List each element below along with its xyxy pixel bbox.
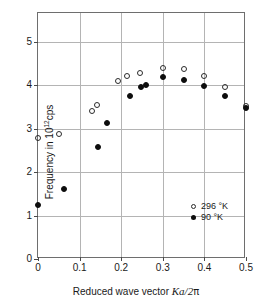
y-tick-mark	[34, 172, 38, 173]
gridline-horizontal	[38, 42, 244, 43]
x-tick-mark	[80, 257, 81, 261]
y-axis-label-suffix: cps	[44, 104, 55, 120]
y-tick-mark	[34, 259, 38, 260]
x-tick-mark	[204, 257, 205, 261]
data-point-series-1	[115, 78, 121, 84]
data-point-series-2	[104, 120, 110, 126]
data-point-series-2	[243, 105, 249, 111]
data-point-series-1	[160, 65, 166, 71]
y-tick-mark	[34, 85, 38, 86]
data-point-series-2	[160, 74, 166, 80]
data-point-series-2	[35, 202, 41, 208]
data-point-series-1	[56, 131, 62, 137]
open-circle-marker-icon	[190, 202, 199, 211]
filled-circle-marker-icon	[190, 213, 199, 222]
data-point-series-2	[127, 93, 133, 99]
y-tick-mark	[34, 42, 38, 43]
data-point-series-1	[201, 73, 207, 79]
data-point-series-1	[89, 108, 95, 114]
y-axis-label-prefix: Frequency in 10	[44, 127, 55, 199]
gridline-vertical	[121, 13, 122, 257]
x-tick-label: 0.1	[73, 263, 87, 273]
y-axis-label: Frequency in 1012cps	[43, 104, 55, 199]
data-point-series-1	[181, 66, 187, 72]
data-point-series-2	[201, 83, 207, 89]
scatter-plot-figure: 00.10.20.30.40.5012345 296 °K 90 °K Freq…	[0, 0, 272, 303]
data-point-series-1	[222, 84, 228, 90]
x-tick-label: 0.4	[197, 263, 211, 273]
x-tick-label: 0	[35, 263, 41, 273]
gridline-vertical	[163, 13, 164, 257]
data-point-series-2	[181, 77, 187, 83]
y-tick-label: 1	[26, 211, 32, 221]
data-point-series-2	[95, 144, 101, 150]
legend-label-296k: 296 °K	[201, 201, 228, 212]
y-tick-label: 5	[26, 37, 32, 47]
x-axis-label-pi: π	[193, 286, 199, 297]
y-tick-label: 2	[26, 167, 32, 177]
data-point-series-1	[124, 73, 130, 79]
legend-item-90k: 90 °K	[190, 212, 228, 223]
y-tick-mark	[34, 129, 38, 130]
data-point-series-2	[222, 93, 228, 99]
legend: 296 °K 90 °K	[190, 201, 228, 223]
x-tick-mark	[163, 257, 164, 261]
gridline-vertical	[80, 13, 81, 257]
data-point-series-1	[94, 102, 100, 108]
x-axis-label: Reduced wave vector Ka/2π	[0, 285, 272, 297]
legend-item-296k: 296 °K	[190, 201, 228, 212]
data-point-series-1	[35, 135, 41, 141]
legend-label-90k: 90 °K	[201, 212, 223, 223]
data-point-series-1	[137, 70, 143, 76]
x-tick-mark	[38, 257, 39, 261]
data-point-series-2	[61, 186, 67, 192]
y-axis-label-exponent: 12	[43, 120, 50, 127]
y-tick-label: 3	[26, 124, 32, 134]
x-tick-label: 0.3	[156, 263, 170, 273]
y-tick-mark	[34, 216, 38, 217]
gridline-horizontal	[38, 129, 244, 130]
x-axis-label-divisor: /2	[185, 285, 194, 297]
plot-area: 00.10.20.30.40.5012345 296 °K 90 °K	[37, 12, 245, 258]
x-tick-mark	[121, 257, 122, 261]
x-axis-label-prefix: Reduced wave vector	[73, 286, 172, 297]
y-tick-label: 0	[26, 254, 32, 264]
x-axis-label-symbol: Ka	[172, 285, 185, 297]
x-tick-label: 0.2	[114, 263, 128, 273]
y-tick-label: 4	[26, 80, 32, 90]
data-point-series-2	[143, 82, 149, 88]
x-tick-label: 0.5	[239, 263, 253, 273]
gridline-horizontal	[38, 172, 244, 173]
x-tick-mark	[246, 257, 247, 261]
